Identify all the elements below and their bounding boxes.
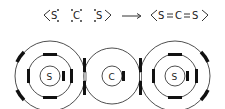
bracket-close bbox=[105, 10, 111, 21]
reactant-atom-s2: S bbox=[96, 10, 102, 21]
svg-text:S: S bbox=[158, 10, 164, 21]
reaction-arrow-icon bbox=[122, 14, 141, 19]
product-structural: S C S bbox=[151, 10, 208, 21]
svg-text:S: S bbox=[172, 72, 178, 82]
bond-right-double bbox=[139, 58, 142, 95]
svg-text:S: S bbox=[47, 72, 53, 82]
atom-left-sulfur: S bbox=[15, 41, 85, 109]
svg-text:S: S bbox=[192, 10, 198, 21]
atom-central-carbon: C bbox=[84, 48, 140, 104]
atom-right-sulfur: S bbox=[140, 41, 210, 109]
reactants-lewis: S C S bbox=[44, 9, 111, 22]
reactant-atom-c: C bbox=[73, 10, 80, 21]
reactant-atom-s1: S bbox=[51, 10, 57, 21]
bracket-open bbox=[44, 10, 50, 21]
cs2-bonding-diagram: S C S S C S S bbox=[0, 0, 225, 109]
svg-text:C: C bbox=[109, 72, 115, 82]
bond-left-double bbox=[83, 58, 86, 95]
svg-text:C: C bbox=[175, 10, 182, 21]
